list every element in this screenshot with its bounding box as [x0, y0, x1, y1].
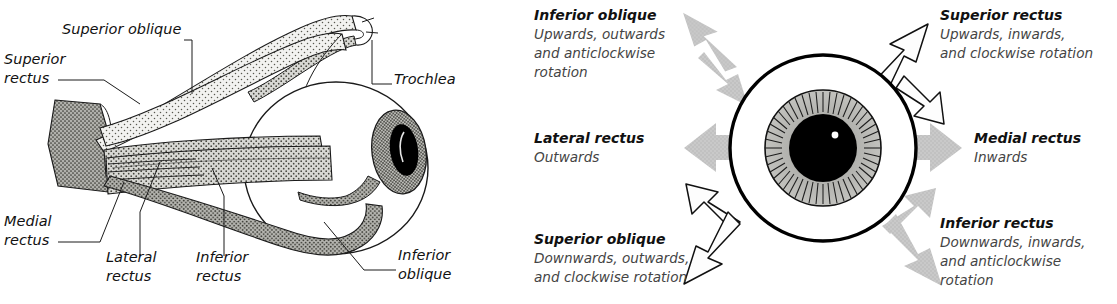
- label-medial-rectus-action: Medial rectus Inwards: [974, 128, 1086, 165]
- eye-front-view: [730, 55, 916, 241]
- label-superior-oblique-action: Superior oblique Downwards, outwards, an…: [534, 229, 694, 285]
- anatomy-panel: Superior oblique Superior rectus Trochle…: [0, 0, 530, 304]
- label-superior-oblique: Superior oblique: [62, 21, 181, 37]
- label-inferior-rectus: Inferior rectus: [196, 249, 253, 284]
- label-lateral-rectus: Lateral rectus: [106, 249, 161, 284]
- arrow-inferior-oblique: [683, 11, 748, 106]
- corneal-highlight: [832, 132, 839, 139]
- pupil: [789, 114, 857, 182]
- label-inferior-rectus-action: Inferior rectus Downwards, inwards, and …: [940, 213, 1090, 288]
- label-medial-rectus: Medial rectus: [4, 213, 56, 248]
- anatomy-svg: Superior oblique Superior rectus Trochle…: [0, 0, 530, 304]
- label-lateral-rectus-action: Lateral rectus Outwards: [534, 128, 649, 165]
- actions-panel: Inferior oblique Upwards, outwards and a…: [530, 0, 1117, 304]
- actions-svg: Inferior oblique Upwards, outwards and a…: [530, 0, 1117, 304]
- arrow-superior-oblique: [684, 184, 740, 284]
- label-superior-rectus: Superior rectus: [4, 51, 70, 86]
- label-trochlea: Trochlea: [394, 71, 456, 87]
- label-inferior-oblique: Inferior oblique: [398, 247, 455, 282]
- label-superior-rectus-action: Superior rectus Upwards, inwards, and cl…: [940, 5, 1093, 61]
- eye-muscle-figure: Superior oblique Superior rectus Trochle…: [0, 0, 1117, 304]
- label-inferior-oblique-action: Inferior oblique Upwards, outwards and a…: [534, 5, 670, 80]
